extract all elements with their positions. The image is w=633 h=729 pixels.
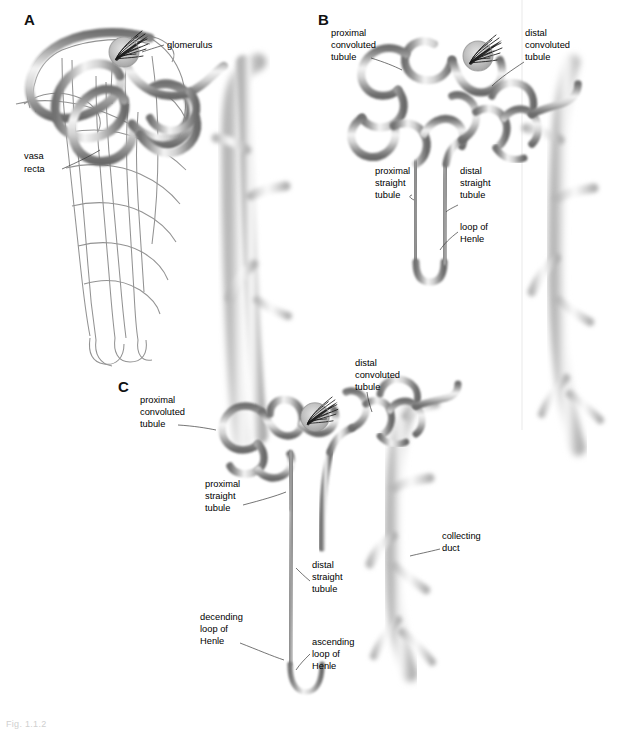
label-c-dct-3: tubule xyxy=(355,382,380,392)
label-c-cd-1: collecting xyxy=(442,531,481,541)
label-b-dst-3: tubule xyxy=(460,190,485,200)
label-vasa-line1: vasa xyxy=(24,151,44,161)
label-c-pst-2: straight xyxy=(205,491,236,501)
label-b-pct-3: tubule xyxy=(331,52,356,62)
label-c-cd-2: duct xyxy=(442,543,460,553)
label-c-asc-2: loop of xyxy=(312,649,340,659)
label-c-dst-2: straight xyxy=(312,572,343,582)
label-b-pct-2: convoluted xyxy=(331,40,376,50)
label-c-asc-1: ascending xyxy=(312,637,354,647)
panel-letter-b: B xyxy=(318,11,329,28)
label-c-dst-3: tubule xyxy=(312,584,337,594)
label-c-dct-2: convoluted xyxy=(355,370,400,380)
label-glomerulus-text: glomerulus xyxy=(167,40,213,50)
label-b-dst-1: distal xyxy=(460,166,482,176)
label-b-pct-1: proximal xyxy=(331,28,366,38)
label-b-pst-1: proximal xyxy=(375,166,410,176)
label-b-dct-2: convoluted xyxy=(525,40,570,50)
label-b-loh-2: Henle xyxy=(460,234,484,244)
label-b-dct-1: distal xyxy=(525,28,547,38)
label-b-pst-2: straight xyxy=(375,178,406,188)
label-c-pst-1: proximal xyxy=(205,479,240,489)
label-c-pst-3: tubule xyxy=(205,503,230,513)
label-c-asc-3: Henle xyxy=(312,661,336,671)
label-b-loh-1: loop of xyxy=(460,222,488,232)
label-c-dct-1: distal xyxy=(355,358,377,368)
label-c-dec-1: decending xyxy=(200,612,243,622)
label-b-pst-3: tubule xyxy=(375,190,400,200)
label-c-dst-1: distal xyxy=(312,560,334,570)
label-vasa-line2: recta xyxy=(24,164,45,174)
label-c-dec-3: Henle xyxy=(200,636,224,646)
label-b-dst-2: straight xyxy=(460,178,491,188)
figure-caption: Fig. 1.1.2 xyxy=(6,719,47,729)
panel-letter-a: A xyxy=(24,11,35,28)
label-c-pct-2: convoluted xyxy=(140,407,185,417)
panel-letter-c: C xyxy=(118,378,129,395)
label-c-pct-1: proximal xyxy=(140,395,175,405)
label-c-pct-3: tubule xyxy=(140,419,165,429)
label-b-dct-3: tubule xyxy=(525,52,550,62)
label-c-dec-2: loop of xyxy=(200,624,228,634)
